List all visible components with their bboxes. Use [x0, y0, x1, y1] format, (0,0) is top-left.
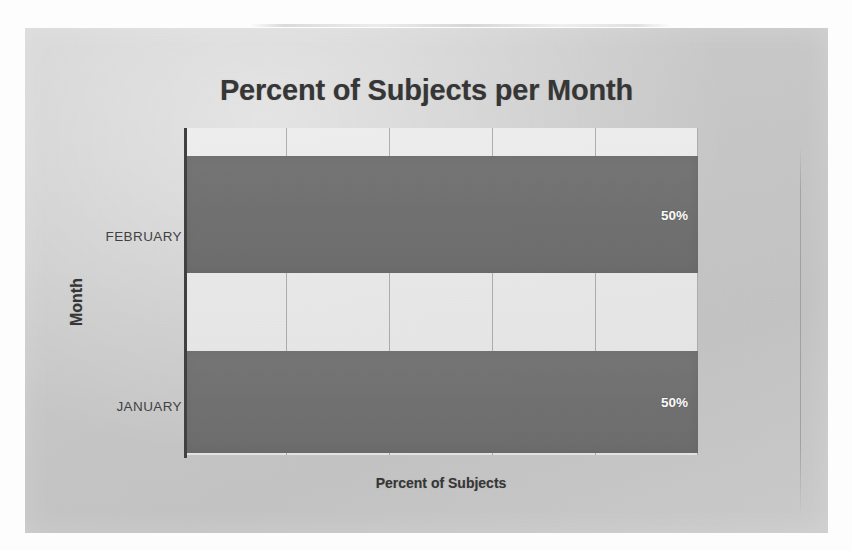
- category-axis-labels: FEBRUARY JANUARY: [60, 128, 182, 455]
- category-label-february: FEBRUARY: [62, 229, 182, 244]
- bar-value-january: 50%: [661, 395, 688, 410]
- category-label-january: JANUARY: [62, 399, 182, 414]
- x-axis-title: Percent of Subjects: [184, 475, 698, 491]
- chart-frame: Percent of Subjects per Month Month FEBR…: [25, 28, 828, 533]
- bar-january[interactable]: 50%: [184, 351, 698, 453]
- bar-value-february: 50%: [661, 207, 688, 222]
- chart-title: Percent of Subjects per Month: [25, 74, 828, 107]
- scan-fold-line: [800, 146, 801, 516]
- screenshot-root: Percent of Subjects per Month Month FEBR…: [0, 0, 852, 551]
- scan-bleed-artifact: [250, 24, 670, 27]
- plot-area: 50% 50%: [184, 128, 698, 455]
- y-axis-line: [184, 128, 187, 458]
- bar-february[interactable]: 50%: [184, 156, 698, 273]
